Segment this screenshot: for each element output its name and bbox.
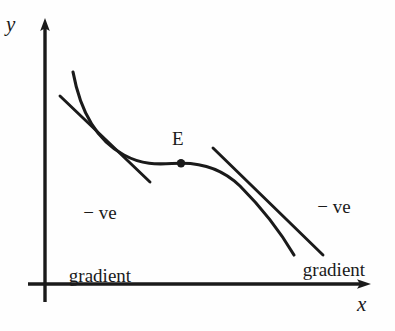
point-e-marker: [177, 159, 185, 167]
figure-canvas: y x E − ve gradient − ve gradient: [0, 0, 395, 331]
y-axis-label: y: [6, 13, 15, 37]
annotation-left-line2: gradient: [48, 265, 152, 286]
annotation-left: − ve gradient: [48, 159, 152, 329]
annotation-right-line2: gradient: [284, 259, 384, 280]
annotation-left-line1: − ve: [48, 202, 152, 223]
point-e-label: E: [172, 128, 184, 149]
annotation-right: − ve gradient: [284, 153, 384, 323]
annotation-right-line1: − ve: [284, 196, 384, 217]
